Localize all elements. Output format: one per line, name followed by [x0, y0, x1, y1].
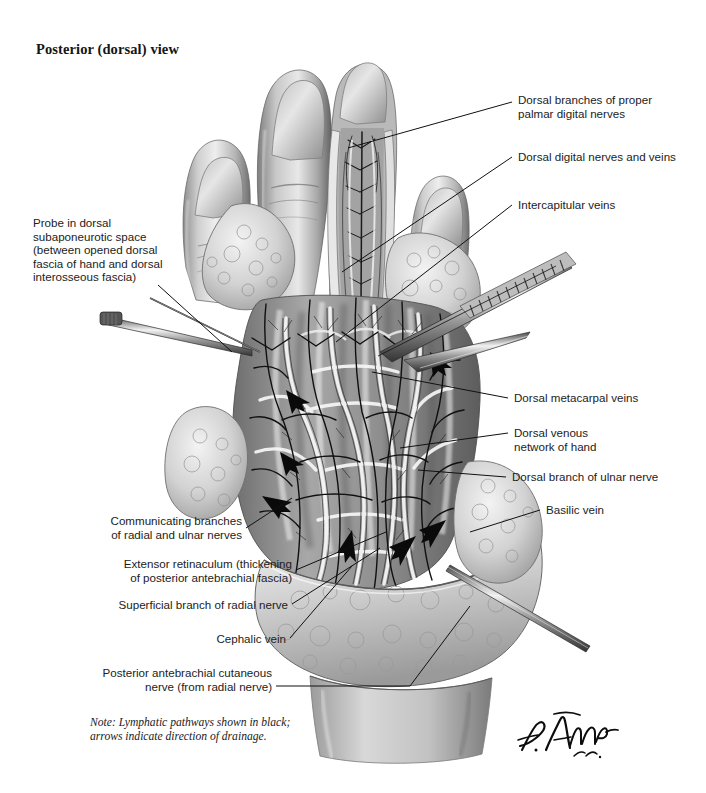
- illustration-plate: Posterior (dorsal) view Dorsal branches …: [0, 0, 706, 793]
- artist-signature: F. Netter M.D.: [516, 706, 626, 766]
- label-probe-in-dorsal-subaponeurotic-space: Probe in dorsal subaponeurotic space (be…: [33, 216, 193, 284]
- label-extensor-retinaculum: Extensor retinaculum (thickening of post…: [58, 557, 292, 584]
- label-dorsal-digital-nerves-and-veins: Dorsal digital nerves and veins: [518, 150, 703, 164]
- label-intercapitular-veins: Intercapitular veins: [518, 198, 698, 212]
- forearm: [310, 676, 492, 763]
- label-dorsal-branches-proper-palmar-digital-nerves: Dorsal branches of proper palmar digital…: [518, 93, 698, 120]
- label-dorsal-branch-of-ulnar-nerve: Dorsal branch of ulnar nerve: [512, 470, 702, 484]
- label-dorsal-venous-network-of-hand: Dorsal venous network of hand: [514, 426, 674, 453]
- label-communicating-branches-radial-ulnar-nerves: Communicating branches of radial and uln…: [56, 514, 242, 541]
- label-posterior-antebrachial-cutaneous-nerve: Posterior antebrachial cutaneous nerve (…: [58, 666, 272, 693]
- label-superficial-branch-of-radial-nerve: Superficial branch of radial nerve: [58, 598, 288, 612]
- label-basilic-vein: Basilic vein: [546, 503, 666, 517]
- hand-dorsum: [233, 295, 481, 590]
- page-title: Posterior (dorsal) view: [36, 41, 179, 58]
- figure-note: Note: Lymphatic pathways shown in black;…: [90, 716, 290, 744]
- label-cephalic-vein: Cephalic vein: [120, 632, 286, 646]
- label-dorsal-metacarpal-veins: Dorsal metacarpal veins: [514, 391, 694, 405]
- radial-border-flap: [165, 407, 248, 519]
